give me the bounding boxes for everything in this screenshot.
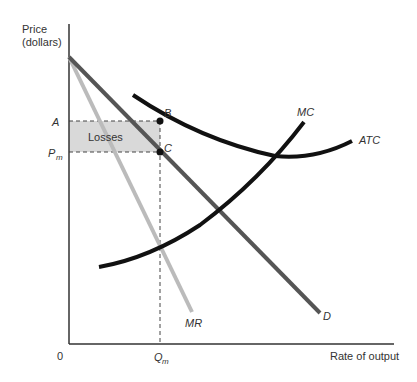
price-pm-subscript: m	[56, 153, 63, 162]
origin-label: 0	[57, 350, 63, 362]
mc-label: MC	[297, 106, 314, 118]
y-axis-label-line2: (dollars)	[22, 36, 62, 48]
losses-label: Losses	[88, 131, 123, 143]
monopoly-loss-diagram: Price (dollars) Rate of output 0 A P m Q…	[0, 0, 417, 382]
d-label: D	[323, 310, 331, 322]
atc-label: ATC	[358, 134, 380, 146]
price-a-label: A	[51, 116, 59, 128]
demand-curve	[69, 57, 320, 313]
point-c-label: C	[164, 142, 172, 154]
y-axis-label-line1: Price	[22, 23, 47, 35]
point-c	[157, 149, 164, 156]
point-b	[157, 118, 164, 125]
mr-curve	[69, 57, 192, 312]
quantity-qm-subscript: m	[162, 357, 169, 366]
price-pm-label: P	[48, 147, 56, 159]
mr-label: MR	[185, 317, 202, 329]
x-axis-label: Rate of output	[330, 350, 399, 362]
point-b-label: B	[164, 107, 171, 119]
